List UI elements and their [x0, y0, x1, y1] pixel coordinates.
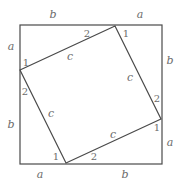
inner-square — [20, 26, 161, 163]
label-c-bottom: c — [110, 128, 116, 141]
angle-top-1: 1 — [123, 28, 129, 39]
angle-top-2: 2 — [84, 28, 90, 39]
angle-left-1: 1 — [23, 57, 29, 68]
outer-square — [20, 25, 162, 164]
angle-bottom-2: 2 — [91, 151, 97, 162]
label-top-b: b — [49, 8, 56, 21]
label-bottom-a: a — [37, 168, 44, 181]
label-c-left: c — [48, 107, 54, 120]
label-right-b: b — [166, 54, 173, 67]
angle-right-1: 1 — [154, 122, 160, 133]
label-bottom-b: b — [121, 168, 128, 181]
label-c-top: c — [67, 50, 73, 63]
label-left-b: b — [7, 118, 14, 131]
pythagorean-proof-diagram: b a b a a b a b c c c c 2 1 2 1 1 2 1 2 — [0, 0, 183, 190]
label-c-right: c — [127, 71, 133, 84]
angle-right-2: 2 — [154, 93, 160, 104]
label-left-a: a — [8, 40, 15, 53]
angle-left-2: 2 — [22, 86, 28, 97]
label-right-a: a — [167, 136, 174, 149]
angle-bottom-1: 1 — [53, 151, 59, 162]
label-top-a: a — [137, 8, 144, 21]
